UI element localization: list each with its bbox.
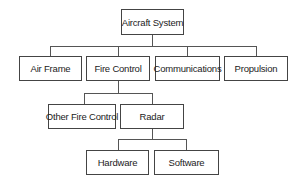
connector (50, 46, 257, 47)
connector (152, 129, 153, 139)
connector (118, 81, 119, 93)
connector (118, 139, 119, 150)
connector (50, 46, 51, 56)
connector (152, 93, 153, 104)
node-aircraft-system: Aircraft System (121, 9, 184, 35)
connector (256, 46, 257, 56)
connector (84, 93, 153, 94)
connector (187, 46, 188, 56)
node-other-fire-control: Other Fire Control (48, 104, 116, 129)
node-air-frame: Air Frame (19, 56, 82, 81)
node-communications: Communications (155, 56, 220, 81)
node-propulsion: Propulsion (224, 56, 288, 81)
connector (118, 46, 119, 56)
node-radar: Radar (120, 104, 184, 129)
connector (118, 139, 187, 140)
node-software: Software (154, 150, 219, 175)
node-hardware: Hardware (86, 150, 149, 175)
connector (84, 93, 85, 104)
node-fire-control: Fire Control (86, 56, 150, 81)
connector (186, 139, 187, 150)
connector (152, 35, 153, 46)
